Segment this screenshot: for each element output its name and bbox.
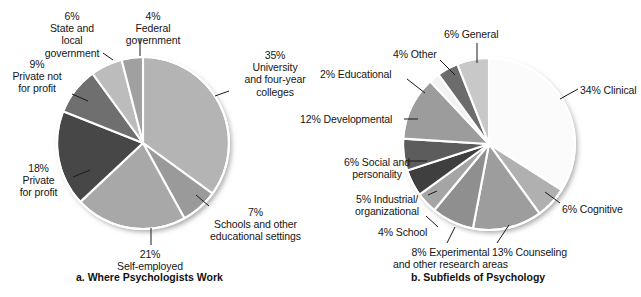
- slice-label: 21% Self-employed: [105, 248, 195, 272]
- slice-label: 12% Developmental: [300, 113, 402, 125]
- slice-label: 2% Educational: [320, 68, 405, 80]
- slice-label: 18% Private for profit: [6, 162, 71, 199]
- slice-label: 34% Clinical: [580, 84, 641, 96]
- slice-label: 8% Experimental and other research areas: [383, 246, 518, 270]
- slice-label: 5% Industrial/ organizational: [347, 193, 427, 217]
- slice-label: 4% School: [378, 226, 434, 238]
- label-leader-line: [560, 89, 578, 99]
- slice-label: 6% State and local government: [35, 10, 109, 59]
- slice-label: 35% University and four-year colleges: [230, 49, 320, 98]
- slice-label: 9% Private not for profit: [4, 58, 70, 95]
- pie-chart-a: [57, 57, 229, 229]
- slice-label: 4% Federal government: [116, 10, 190, 47]
- slice-label: 7% Schools and other educational setting…: [193, 206, 318, 243]
- slice-label: 4% Other: [393, 48, 447, 60]
- slice-label: 6% Social and personality: [337, 156, 417, 180]
- caption-panel-a: a. Where Psychologists Work: [76, 271, 223, 283]
- caption-panel-b: b. Subfields of Psychology: [411, 271, 545, 283]
- slice-label: 6% Cognitive: [562, 203, 632, 215]
- pie-chart-b: [403, 58, 575, 230]
- label-leader-line: [447, 227, 455, 243]
- slice-label: 6% General: [444, 28, 508, 40]
- psychology-pie-figure: 35% University and four-year colleges7% …: [0, 0, 641, 297]
- label-leader-line: [215, 91, 229, 96]
- label-leader-line: [407, 79, 425, 93]
